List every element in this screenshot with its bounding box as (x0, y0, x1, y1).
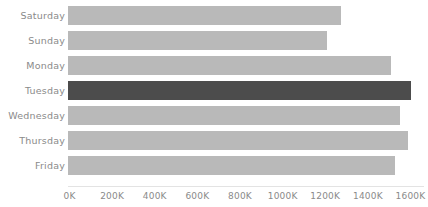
plot-area: SaturdaySundayMondayTuesdayWednesdayThur… (0, 0, 428, 186)
x-axis: 0K200K400K600K800K1000K1200K1400K1600K (0, 186, 428, 207)
category-label-tuesday: Tuesday (0, 78, 65, 103)
bar-saturday[interactable] (68, 6, 341, 25)
bar-row: Monday (0, 53, 428, 78)
bar-row: Tuesday (0, 78, 428, 103)
x-tick-label: 1600K (396, 191, 426, 201)
category-label-friday: Friday (0, 153, 65, 178)
category-label-thursday: Thursday (0, 128, 65, 153)
bar-row: Wednesday (0, 103, 428, 128)
x-tick-label: 400K (143, 191, 167, 201)
x-axis-line (68, 186, 424, 187)
x-tick-label: 1200K (310, 191, 340, 201)
bar-thursday[interactable] (68, 131, 408, 150)
bar-friday[interactable] (68, 156, 395, 175)
x-tick-label: 1000K (268, 191, 298, 201)
bar-row: Saturday (0, 3, 428, 28)
bar-row: Sunday (0, 28, 428, 53)
category-label-saturday: Saturday (0, 3, 65, 28)
category-label-wednesday: Wednesday (0, 103, 65, 128)
bar-row: Friday (0, 153, 428, 178)
bar-tuesday[interactable] (68, 81, 411, 100)
bar-row: Thursday (0, 128, 428, 153)
category-label-sunday: Sunday (0, 28, 65, 53)
bar-wednesday[interactable] (68, 106, 400, 125)
bar-monday[interactable] (68, 56, 391, 75)
category-label-monday: Monday (0, 53, 65, 78)
x-tick-label: 600K (185, 191, 209, 201)
bar-chart: SaturdaySundayMondayTuesdayWednesdayThur… (0, 0, 428, 207)
x-tick-label: 1400K (353, 191, 383, 201)
x-tick-label: 200K (100, 191, 124, 201)
x-tick-label: 0K (63, 191, 75, 201)
x-tick-label: 800K (228, 191, 252, 201)
bar-sunday[interactable] (68, 31, 327, 50)
